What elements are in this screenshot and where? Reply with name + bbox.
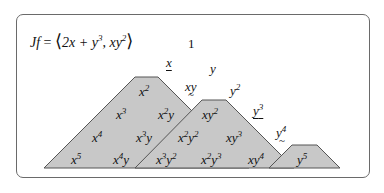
- monomial-x5: x5: [71, 153, 81, 166]
- generator-1: 2x + y: [62, 35, 98, 50]
- monomial-1: 1: [188, 36, 195, 52]
- monomial-x3y2: x3y2: [156, 153, 177, 166]
- monomial-y: y: [210, 62, 216, 75]
- monomial-y5: y5: [297, 153, 307, 166]
- eq-sign: =: [40, 35, 55, 50]
- monomial-y2: y2: [230, 84, 240, 97]
- monomial-x4: x4: [92, 131, 102, 144]
- monomial-y3: y3: [253, 104, 263, 117]
- monomial-x: x: [166, 56, 172, 69]
- monomial-x2: x2: [139, 85, 149, 98]
- generator-2: xy: [109, 35, 121, 50]
- monomial-x2y3: x2y3: [201, 153, 222, 166]
- angle-close: ⟩: [126, 31, 133, 51]
- monomial-xy3: xy3: [226, 131, 242, 144]
- monomial-xy2: xy2: [202, 108, 218, 121]
- monomial-xy4: xy4: [248, 153, 264, 166]
- monomial-x2y: x2y: [158, 108, 174, 121]
- monomial-xy: xy: [185, 80, 197, 93]
- monomial-x2y2: x2y2: [178, 131, 199, 144]
- angle-open: ⟨: [55, 31, 62, 51]
- monomial-y4: y4: [276, 126, 286, 139]
- monomial-x3: x3: [116, 108, 126, 121]
- monomial-x4y: x4y: [113, 153, 129, 166]
- eq-lhs: Jf: [30, 35, 40, 50]
- jacobian-ideal-equation: Jf = ⟨2x + y3, xy2⟩: [30, 30, 133, 52]
- monomial-x3y: x3y: [136, 131, 152, 144]
